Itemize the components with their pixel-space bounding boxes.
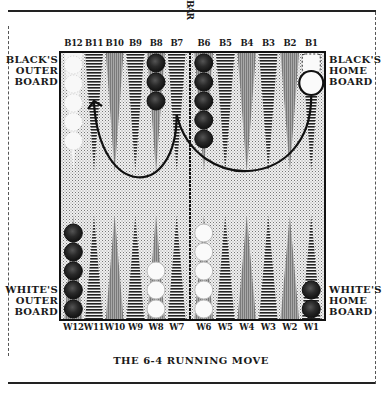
black-checker xyxy=(64,262,82,280)
black-checker xyxy=(195,111,213,129)
point-label-b9: B9 xyxy=(124,38,146,48)
point-label-b12: B12 xyxy=(62,38,84,48)
white-checker xyxy=(195,262,213,280)
label-line: BOARD xyxy=(329,306,381,317)
point-label-w12: W12 xyxy=(62,322,84,332)
point-label-w2: W2 xyxy=(279,322,301,332)
point-label-w4: W4 xyxy=(236,322,258,332)
label-line: WHITE'S xyxy=(4,284,58,295)
point-label-w9: W9 xyxy=(124,322,146,332)
black-checker xyxy=(195,73,213,91)
black-checker xyxy=(147,54,165,72)
point-label-w6: W6 xyxy=(193,322,215,332)
white-checker xyxy=(147,281,165,299)
label-line: BOARD xyxy=(4,306,58,317)
ghost-checker xyxy=(64,94,82,112)
black-checker xyxy=(302,300,320,318)
point-label-b3: B3 xyxy=(257,38,279,48)
black-checker xyxy=(147,73,165,91)
label-line: BOARD xyxy=(4,76,58,87)
black-checker xyxy=(64,281,82,299)
black-checker xyxy=(195,54,213,72)
label-line: WHITE'S xyxy=(329,284,381,295)
white-home-board-label: WHITE'S HOME BOARD xyxy=(329,284,381,317)
white-checker xyxy=(195,224,213,242)
moving-white-checker xyxy=(299,71,323,95)
white-checker xyxy=(147,300,165,318)
ghost-checker xyxy=(64,56,82,74)
label-line: HOME xyxy=(329,295,381,306)
label-line: OUTER xyxy=(4,65,58,76)
label-line: OUTER xyxy=(4,295,58,306)
black-checker xyxy=(64,224,82,242)
point-label-b1: B1 xyxy=(300,38,322,48)
black-checker xyxy=(195,130,213,148)
label-line: BOARD xyxy=(329,76,381,87)
black-checker xyxy=(302,281,320,299)
point-label-b10: B10 xyxy=(104,38,126,48)
black-checker xyxy=(195,92,213,110)
ghost-checker xyxy=(64,75,82,93)
point-label-b2: B2 xyxy=(279,38,301,48)
point-label-w8: W8 xyxy=(145,322,167,332)
point-label-b4: B4 xyxy=(236,38,258,48)
point-label-w11: W11 xyxy=(83,322,105,332)
black-checker xyxy=(147,92,165,110)
ghost-checker-origin xyxy=(302,54,320,72)
black-outer-board-label: BLACK'S OUTER BOARD xyxy=(4,54,58,87)
label-line: HOME xyxy=(329,65,381,76)
point-label-b11: B11 xyxy=(83,38,105,48)
point-label-b8: B8 xyxy=(145,38,167,48)
ghost-checker xyxy=(64,113,82,131)
white-checker xyxy=(195,300,213,318)
white-outer-board-label: WHITE'S OUTER BOARD xyxy=(4,284,58,317)
point-label-w3: W3 xyxy=(257,322,279,332)
black-home-board-label: BLACK'S HOME BOARD xyxy=(329,54,381,87)
point-label-w7: W7 xyxy=(166,322,188,332)
black-checker xyxy=(64,300,82,318)
point-label-b5: B5 xyxy=(214,38,236,48)
label-line: BLACK'S xyxy=(329,54,381,65)
point-label-w10: W10 xyxy=(104,322,126,332)
white-checker xyxy=(195,281,213,299)
point-label-w1: W1 xyxy=(300,322,322,332)
black-checker xyxy=(64,243,82,261)
white-checker xyxy=(195,243,213,261)
bar-label: BAR xyxy=(185,0,195,19)
label-line: BLACK'S xyxy=(4,54,58,65)
diagram-caption: THE 6-4 RUNNING MOVE xyxy=(0,355,382,366)
ghost-checker xyxy=(64,132,82,150)
point-label-w5: W5 xyxy=(214,322,236,332)
point-label-b7: B7 xyxy=(166,38,188,48)
white-checker xyxy=(147,262,165,280)
point-label-b6: B6 xyxy=(193,38,215,48)
